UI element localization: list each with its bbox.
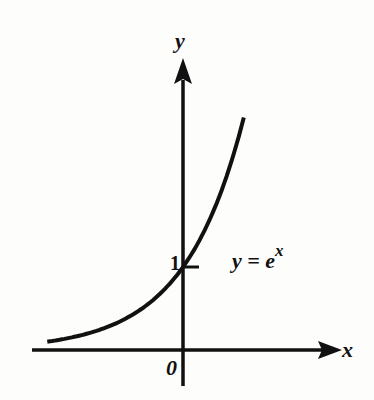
equation-label: y = ex — [232, 246, 284, 272]
y-intercept-label: 1 — [170, 253, 180, 273]
exp-curve — [47, 118, 244, 342]
x-axis-label: x — [342, 339, 353, 361]
equation-base: y = e — [232, 248, 275, 273]
origin-label: 0 — [166, 357, 177, 379]
equation-exponent: x — [275, 241, 284, 260]
exponential-graph — [0, 0, 374, 400]
y-axis-label: y — [175, 30, 185, 52]
